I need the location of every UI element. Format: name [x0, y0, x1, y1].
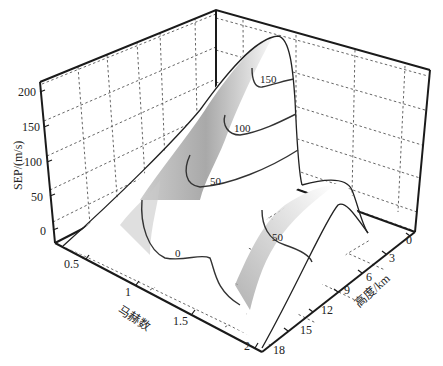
z-tick-0: 0 — [40, 224, 46, 238]
y-tick-9: 9 — [344, 283, 350, 297]
z-tick-100: 100 — [24, 155, 42, 169]
y-tick-0: 0 — [406, 233, 412, 247]
x-axis-label: 马赫数 — [115, 302, 153, 334]
contour-label-0: 0 — [175, 247, 181, 259]
x-tick-1: 1 — [125, 285, 131, 299]
z-tick-200: 200 — [18, 85, 36, 99]
contour-label-100: 100 — [234, 122, 251, 134]
x-tick-0.5: 0.5 — [64, 257, 79, 271]
z-tick-150: 150 — [22, 120, 40, 134]
z-tick-50: 50 — [31, 190, 43, 204]
y-tick-15: 15 — [300, 323, 312, 337]
y-tick-12: 12 — [321, 303, 333, 317]
y-tick-3: 3 — [389, 251, 395, 265]
contour-label-150: 150 — [260, 73, 277, 85]
contour-label-50-hump: 50 — [272, 231, 284, 243]
x-tick-2: 2 — [244, 339, 250, 353]
surface-plot: 150 100 50 0 50 200 150 100 50 0 SEP/(m/… — [0, 0, 443, 366]
z-axis-label: SEP/(m/s) — [11, 141, 25, 190]
x-tick-1.5: 1.5 — [173, 314, 188, 328]
contour-label-50-main: 50 — [210, 175, 222, 187]
y-tick-18: 18 — [273, 343, 285, 357]
